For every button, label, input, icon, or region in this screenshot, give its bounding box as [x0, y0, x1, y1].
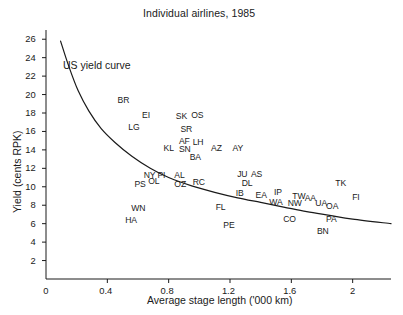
y-tick-label: 4: [31, 237, 36, 246]
data-point-label: NW: [288, 199, 302, 208]
x-tick-label: 2: [350, 286, 355, 295]
y-tick-label: 20: [25, 90, 35, 99]
data-point-label: BN: [317, 227, 329, 236]
data-point-label: FI: [352, 193, 359, 202]
y-tick-label: 8: [31, 200, 36, 209]
chart-title: Individual airlines, 1985: [143, 8, 255, 19]
data-point-label: BA: [190, 153, 201, 162]
data-point-label: DL: [242, 179, 253, 188]
y-tick-label: 14: [25, 145, 35, 154]
y-tick-label: 24: [25, 53, 35, 62]
x-tick-label: 0.4: [99, 286, 112, 295]
y-tick-label: 22: [25, 71, 35, 80]
y-tick-label: 12: [25, 163, 35, 172]
y-axis-title: Yield (cents RPK): [12, 131, 23, 213]
x-tick-label: 1.2: [222, 286, 235, 295]
data-point-label: KL: [164, 144, 174, 153]
x-tick-label: 0.8: [161, 286, 174, 295]
data-point-label: AA: [305, 194, 316, 203]
y-tick-label: 18: [25, 108, 35, 117]
data-point-label: OL: [148, 177, 159, 186]
data-point-label: PE: [223, 221, 234, 230]
data-point-label: AZ: [211, 144, 222, 153]
data-point-label: LG: [128, 123, 139, 132]
x-tick-label: 0: [43, 286, 48, 295]
data-point-label: CO: [283, 215, 296, 224]
y-tick-label: 2: [31, 256, 36, 265]
data-point-label: IB: [236, 189, 244, 198]
curve-annotation-label: US yield curve: [63, 60, 131, 71]
data-point-label: HA: [125, 216, 137, 225]
y-tick-label: 16: [25, 126, 35, 135]
data-point-label: RC: [193, 178, 205, 187]
data-point-label: WN: [131, 204, 145, 213]
data-point-label: OS: [191, 111, 203, 120]
data-point-label: PS: [134, 180, 145, 189]
x-tick-label: 1.6: [283, 286, 296, 295]
data-point-label: EI: [142, 111, 150, 120]
data-point-label: SR: [180, 125, 192, 134]
chart-canvas: [0, 0, 403, 315]
y-tick-label: 26: [25, 34, 35, 43]
data-point-label: EA: [256, 191, 267, 200]
x-axis-ticks: [107, 279, 352, 283]
data-point-label: IP: [274, 188, 282, 197]
data-point-label: TK: [335, 179, 346, 188]
data-point-label: PA: [326, 215, 337, 224]
data-point-label: AY: [233, 144, 244, 153]
y-tick-label: 10: [25, 182, 35, 191]
x-axis-title: Average stage length ('000 km): [147, 295, 292, 306]
data-point-label: OZ: [174, 180, 186, 189]
y-axis-ticks: [42, 39, 46, 260]
data-point-label: SK: [176, 112, 187, 121]
data-point-label: FL: [216, 203, 226, 212]
data-point-label: LH: [193, 138, 204, 147]
data-point-label: WA: [269, 198, 282, 207]
y-tick-label: 6: [31, 219, 36, 228]
chart-figure: Individual airlines, 1985 US yield curve…: [0, 0, 403, 315]
data-point-label: OA: [326, 202, 338, 211]
data-point-label: BR: [118, 96, 130, 105]
